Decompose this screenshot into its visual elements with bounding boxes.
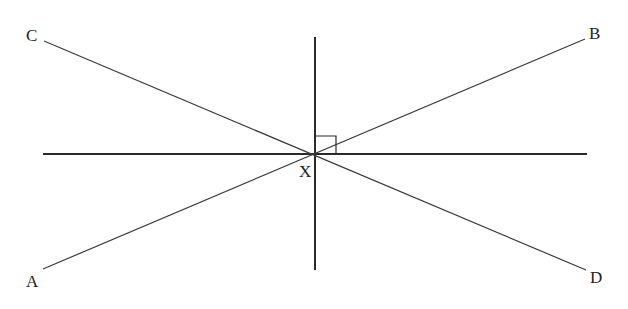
label-x: X bbox=[299, 162, 311, 181]
label-a: A bbox=[26, 272, 39, 291]
right-angle-marker bbox=[315, 136, 336, 154]
geometry-diagram: C B A D X bbox=[0, 0, 628, 309]
label-d: D bbox=[590, 268, 602, 287]
label-c: C bbox=[26, 26, 37, 45]
label-b: B bbox=[589, 24, 600, 43]
